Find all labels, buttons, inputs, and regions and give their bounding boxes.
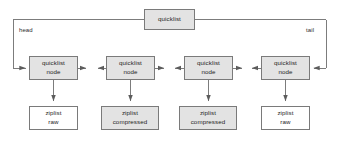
quicklist-root-label: quicklist [158,15,181,24]
quicklist-root-box[interactable]: quicklist [144,9,195,30]
ziplist-box-2-line2: compressed [113,118,148,127]
quicklist-node-4-line1: quicklist [274,59,297,68]
quicklist-node-3[interactable]: quicklist node [184,56,233,80]
quicklist-node-2-line2: node [123,68,137,77]
ziplist-box-4-line2: raw [280,118,290,127]
ziplist-box-2[interactable]: ziplist compressed [101,106,159,130]
quicklist-node-2-line1: quicklist [119,59,142,68]
ziplist-box-3-line2: compressed [191,118,226,127]
quicklist-node-4-line2: node [278,68,292,77]
ziplist-box-3-line1: ziplist [200,109,216,118]
quicklist-node-4[interactable]: quicklist node [261,56,310,80]
quicklist-node-3-line2: node [201,68,215,77]
quicklist-node-1-line2: node [46,68,60,77]
ziplist-box-1-line1: ziplist [45,109,61,118]
quicklist-node-3-line1: quicklist [197,59,220,68]
ziplist-box-4-line1: ziplist [277,109,293,118]
head-label: head [19,27,33,33]
tail-label: tail [306,27,314,33]
ziplist-box-3[interactable]: ziplist compressed [179,106,237,130]
ziplist-box-2-line1: ziplist [122,109,138,118]
quicklist-diagram: quicklist head tail quicklist node quick… [0,0,339,148]
ziplist-box-1[interactable]: ziplist raw [29,106,78,130]
ziplist-box-4[interactable]: ziplist raw [261,106,310,130]
quicklist-node-2[interactable]: quicklist node [106,56,155,80]
quicklist-node-1[interactable]: quicklist node [29,56,78,80]
ziplist-box-1-line2: raw [48,118,58,127]
quicklist-node-1-line1: quicklist [42,59,65,68]
